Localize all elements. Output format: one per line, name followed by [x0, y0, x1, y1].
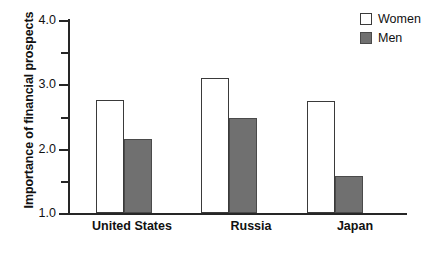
bar-women-russia[interactable] [201, 78, 229, 213]
legend-swatch-men-icon [360, 32, 372, 44]
legend-label-men: Men [378, 31, 402, 45]
bar-men-russia[interactable] [229, 118, 257, 213]
bar-women-united-states[interactable] [96, 100, 124, 213]
legend-swatch-women-icon [360, 13, 372, 25]
bar-women-japan[interactable] [307, 101, 335, 213]
legend-item-men[interactable]: Men [360, 29, 421, 47]
legend-item-women[interactable]: Women [360, 10, 421, 28]
bar-chart: Importance of financial prospects 4.0 3.… [0, 0, 429, 259]
x-category-label-united-states: United States [62, 219, 202, 233]
bar-men-united-states[interactable] [124, 139, 152, 213]
x-category-label-japan: Japan [300, 219, 410, 233]
legend-label-women: Women [378, 12, 421, 26]
bar-men-japan[interactable] [335, 176, 363, 213]
x-category-label-russia: Russia [192, 219, 310, 233]
legend: Women Men [360, 10, 421, 48]
